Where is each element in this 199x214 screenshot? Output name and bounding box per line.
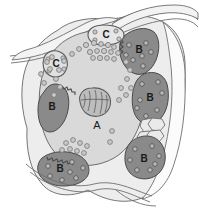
granule bbox=[68, 147, 73, 152]
granule bbox=[105, 42, 110, 47]
vesicle bbox=[157, 154, 162, 159]
vesicle bbox=[144, 41, 149, 46]
granule bbox=[124, 60, 129, 65]
granule bbox=[117, 98, 122, 103]
granule bbox=[114, 29, 118, 33]
granule bbox=[117, 37, 121, 41]
vesicle bbox=[128, 158, 133, 163]
granule bbox=[78, 141, 83, 146]
granule bbox=[82, 151, 87, 156]
granule bbox=[57, 68, 62, 73]
vesicle bbox=[74, 176, 79, 181]
granule bbox=[45, 60, 50, 65]
granule bbox=[60, 148, 65, 153]
vesicle bbox=[140, 82, 145, 87]
vesicle bbox=[149, 50, 154, 55]
granule bbox=[62, 67, 66, 71]
granule bbox=[95, 49, 100, 54]
granule bbox=[129, 86, 134, 91]
granule bbox=[70, 52, 75, 57]
label-dark-cell-top-right: B bbox=[135, 44, 142, 55]
vesicle bbox=[68, 170, 73, 175]
label-dark-cell-right-mid: B bbox=[146, 92, 153, 103]
granule bbox=[124, 93, 129, 98]
granule bbox=[97, 55, 102, 60]
granule bbox=[77, 47, 82, 52]
nucleus-group bbox=[80, 88, 111, 117]
vesicle bbox=[131, 58, 136, 63]
granule bbox=[87, 49, 92, 54]
nucleus-outline bbox=[80, 88, 111, 117]
granule bbox=[39, 72, 44, 77]
vesicle bbox=[70, 160, 75, 165]
label-dark-cell-bottom-right: B bbox=[140, 153, 147, 164]
vesicle bbox=[46, 164, 51, 169]
vesicle bbox=[81, 166, 86, 171]
vesicle bbox=[160, 91, 165, 96]
granule bbox=[101, 48, 106, 53]
vesicle bbox=[133, 147, 138, 152]
granule bbox=[42, 81, 47, 86]
granule bbox=[109, 50, 114, 55]
label-dark-cell-left: B bbox=[48, 101, 55, 112]
granule bbox=[71, 138, 76, 143]
dark-cell-bottom-left-group: B bbox=[38, 152, 89, 186]
vesicle bbox=[150, 144, 155, 149]
dark-cell-bottom-right-group: B bbox=[125, 136, 165, 179]
vesicle bbox=[135, 106, 140, 111]
granule bbox=[99, 42, 104, 47]
cell-diagram-canvas: A B bbox=[0, 0, 199, 214]
granule bbox=[75, 149, 80, 154]
vesicle bbox=[127, 43, 132, 48]
vesicle bbox=[60, 178, 65, 183]
granule bbox=[105, 56, 110, 61]
granule bbox=[48, 67, 53, 72]
granule bbox=[58, 85, 63, 90]
granule bbox=[112, 57, 117, 62]
granule bbox=[125, 77, 130, 82]
granule bbox=[93, 30, 97, 34]
dark-cell-right-mid-group: B bbox=[132, 72, 168, 124]
vesicle bbox=[155, 108, 160, 113]
vesicle bbox=[156, 80, 161, 85]
granule bbox=[91, 40, 96, 45]
vesicle bbox=[148, 168, 153, 173]
vesicle bbox=[144, 114, 149, 119]
label-center-cell-a: A bbox=[93, 119, 101, 131]
cell-diagram-figure: A B bbox=[0, 0, 199, 214]
granule bbox=[64, 141, 69, 146]
granule bbox=[112, 45, 117, 50]
granule bbox=[116, 51, 121, 56]
granule bbox=[50, 55, 55, 60]
granule bbox=[119, 86, 124, 91]
granule bbox=[62, 59, 67, 64]
vesicle bbox=[124, 53, 129, 58]
granule bbox=[83, 42, 88, 47]
label-process-top-c: C bbox=[102, 29, 109, 40]
vesicle bbox=[153, 162, 158, 167]
granule bbox=[108, 140, 113, 145]
granule bbox=[128, 68, 133, 73]
granule bbox=[52, 93, 57, 98]
vesicle bbox=[141, 64, 146, 69]
granule bbox=[54, 77, 59, 82]
vesicle bbox=[138, 98, 143, 103]
granule bbox=[91, 56, 96, 61]
label-dark-cell-bottom-left: B bbox=[56, 163, 63, 174]
granule bbox=[110, 129, 115, 134]
vesicle bbox=[135, 168, 140, 173]
granule bbox=[85, 144, 90, 149]
vesicle bbox=[48, 174, 53, 179]
